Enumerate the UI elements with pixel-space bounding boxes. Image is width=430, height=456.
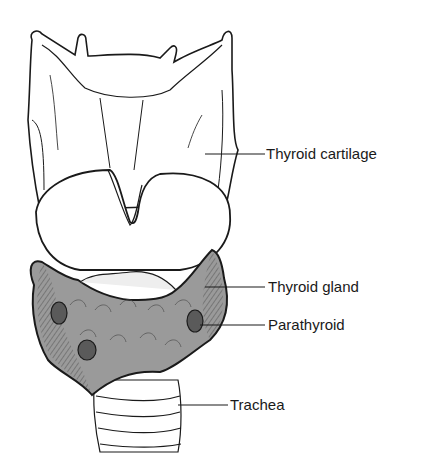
parathyroid-upper-left bbox=[51, 302, 67, 324]
parathyroid-right bbox=[187, 310, 203, 332]
label-parathyroid: Parathyroid bbox=[268, 317, 345, 332]
parathyroid-lower-left bbox=[78, 340, 96, 360]
larynx-thyroid-illustration bbox=[0, 0, 430, 456]
diagram-canvas: Thyroid cartilage Thyroid gland Parathyr… bbox=[0, 0, 430, 456]
label-trachea: Trachea bbox=[230, 397, 284, 412]
label-thyroid-cartilage: Thyroid cartilage bbox=[266, 146, 377, 161]
label-thyroid-gland: Thyroid gland bbox=[268, 279, 359, 294]
trachea-shape bbox=[94, 380, 181, 452]
